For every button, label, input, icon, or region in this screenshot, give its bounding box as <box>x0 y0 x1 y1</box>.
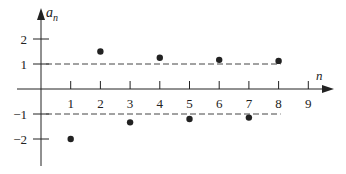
y-tick-label: 2 <box>21 32 28 47</box>
x-tick-label: 3 <box>127 96 134 111</box>
y-axis-label: an <box>46 5 58 23</box>
x-tick-label: 5 <box>186 96 193 111</box>
x-axis-arrow-icon <box>322 85 334 93</box>
data-point <box>246 114 252 120</box>
data-point <box>127 119 133 125</box>
y-tick-label: −1 <box>13 107 27 122</box>
data-point <box>186 116 192 122</box>
data-point <box>275 58 281 64</box>
data-point <box>216 57 222 63</box>
x-tick-label: 7 <box>246 96 253 111</box>
y-tick-label: −2 <box>13 132 27 147</box>
x-tick-label: 2 <box>97 96 104 111</box>
sequence-chart: 12345678921−1−2 an n <box>0 0 346 174</box>
chart-svg: 12345678921−1−2 an n <box>0 0 346 174</box>
data-point <box>97 48 103 54</box>
x-tick-label: 8 <box>275 96 282 111</box>
x-tick-label: 9 <box>305 96 312 111</box>
y-axis-arrow-icon <box>37 8 45 20</box>
x-tick-label: 1 <box>67 96 74 111</box>
x-tick-label: 6 <box>216 96 223 111</box>
data-point <box>157 55 163 61</box>
data-point <box>68 136 74 142</box>
axes: 12345678921−1−2 <box>13 8 334 166</box>
y-tick-label: 1 <box>21 57 28 72</box>
x-axis-label: n <box>316 68 323 83</box>
x-tick-label: 4 <box>157 96 164 111</box>
